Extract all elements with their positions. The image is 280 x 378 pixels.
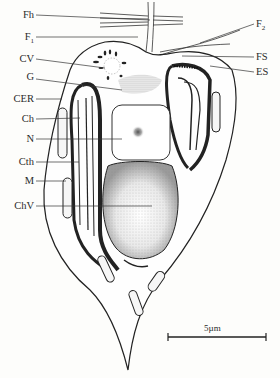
label-chrysolaminarin-vacuole: ChV xyxy=(0,201,34,212)
label-golgi: G xyxy=(0,72,34,83)
label-flagellar-hairs: Fh xyxy=(0,10,34,21)
label-nucleus: N xyxy=(0,134,34,145)
cell-diagram: Fh F1 CV G CER Ch N Cth M ChV F2 FS ES 5… xyxy=(0,0,280,378)
label-flagellar-swelling: FS xyxy=(256,52,268,63)
scale-bar xyxy=(168,333,266,341)
label-chloroplast: Ch xyxy=(0,114,34,125)
nucleus xyxy=(112,105,170,160)
label-flagellum-1: F1 xyxy=(0,32,34,45)
label-contractile-vacuole: CV xyxy=(0,54,34,65)
label-mitochondrion: M xyxy=(0,176,34,187)
cell-drawing xyxy=(0,0,280,378)
label-cer: CER xyxy=(0,94,34,105)
scale-bar-label: 5µm xyxy=(204,323,221,333)
label-flagellum-2: F2 xyxy=(256,19,265,32)
chrysolaminarin-vacuole xyxy=(103,162,178,259)
label-eyespot: ES xyxy=(256,67,268,78)
label-thylakoid: Cth xyxy=(0,157,34,168)
